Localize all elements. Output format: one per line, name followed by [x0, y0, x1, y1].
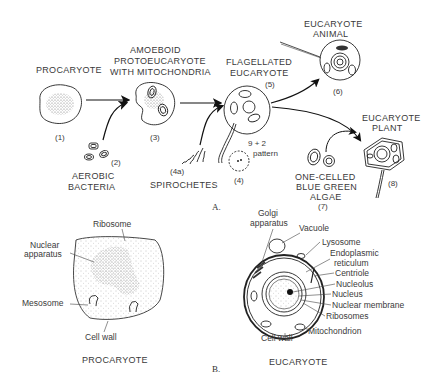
alga-cell-icon	[306, 148, 322, 167]
algae-stage: ONE-CELLED BLUE GREEN ALGAE (7)	[295, 148, 357, 211]
eucaryote-detail: Golgi apparatus Vacuole Lysosome Endopla…	[244, 208, 405, 367]
lysosome-leader	[306, 242, 320, 255]
arrow-flagellated-to-plant	[272, 107, 360, 140]
vacuole-label: Vacuole	[299, 223, 329, 233]
procaryote-stage: PROCARYOTE (1)	[36, 65, 102, 142]
stage-number-8: (8)	[388, 179, 398, 188]
endosymbiosis-figure: PROCARYOTE (1) (2) AEROBIC BACTERIA AMOE…	[0, 0, 442, 391]
flagellated-label-2: EUCARYOTE	[230, 68, 289, 78]
eucaryote-caption: EUCARYOTE	[269, 357, 328, 367]
spirochete-icon	[197, 148, 203, 162]
panel-b: Ribosome Nuclear apparatus Mesosome Cell…	[22, 208, 405, 374]
mitochondrion-inner-icon	[159, 106, 166, 114]
bacterium-inner-icon	[87, 156, 92, 159]
spirochete-icon	[203, 151, 205, 162]
nucleoid-dots	[46, 93, 74, 115]
flagellated-label-1: FLAGELLATED	[226, 57, 292, 67]
mesosome-label: Mesosome	[22, 298, 64, 308]
amoeboid-label-3: WITH MITOCHONDRIA	[110, 67, 211, 77]
golgi-label-1: Golgi	[258, 208, 278, 218]
stage-number-4: (4)	[234, 176, 244, 185]
procaryote-detail: Ribosome Nuclear apparatus Mesosome Cell…	[22, 219, 164, 365]
bacterium-inner-icon	[91, 145, 96, 148]
bacterium-icon	[99, 149, 110, 159]
nucleolus-label: Nucleolus	[336, 279, 373, 289]
chloroplast-icon	[367, 154, 373, 158]
stage-number-4a: (4a)	[170, 167, 185, 176]
arrow-bacteria-to-amoeboid	[103, 103, 126, 140]
panel-b-label: B.	[212, 364, 220, 374]
spirochetes-label: SPIROCHETES	[150, 180, 218, 190]
arrow-spirochetes-to-flagellated	[200, 106, 222, 145]
stage-number-7: (7)	[318, 202, 328, 211]
mitochondrion-icon	[231, 102, 238, 114]
algae-label-2: BLUE GREEN	[296, 182, 357, 192]
bacterium-icon	[89, 143, 98, 149]
amoeboid-label-1: AMOEBOID	[130, 45, 181, 55]
plant-label-1: EUCARYOTE	[362, 113, 421, 123]
er-label-2: reticulum	[334, 258, 368, 268]
pattern-label-1: 9 + 2	[248, 139, 267, 148]
golgi-icon	[336, 46, 348, 51]
flagellum-icon	[222, 124, 236, 163]
golgi-label-2: apparatus	[250, 218, 288, 228]
arrow-algae-to-plant	[326, 131, 355, 152]
axoneme-center-icon	[237, 160, 239, 162]
aerobic-label-1: AEROBIC	[72, 171, 115, 181]
bacterium-inner-icon	[101, 151, 107, 156]
alga-inner-icon	[309, 151, 318, 162]
nucleus	[269, 279, 299, 309]
procaryote-caption: PROCARYOTE	[82, 355, 148, 365]
ribosome-label: Ribosome	[93, 219, 132, 229]
mitochondrion-icon	[324, 63, 330, 73]
ribosomes-label: Ribosomes	[326, 311, 369, 321]
eucaryote-cell-wall-label: Cell wall	[261, 333, 293, 343]
cell-wall-label: Cell wall	[85, 332, 117, 342]
mitochondrion-icon	[247, 113, 261, 124]
pattern-label-2: pattern	[253, 149, 278, 158]
nuclear-label-2: apparatus	[24, 249, 62, 259]
nucleus-label: Nucleus	[332, 289, 363, 299]
vacuole-icon	[269, 239, 285, 253]
nucleolus-icon	[377, 149, 387, 159]
axoneme-center-icon	[240, 159, 242, 161]
stage-number-2: (2)	[111, 158, 121, 167]
stage-number-5: (5)	[265, 80, 275, 89]
nuclear-membrane-label: Nuclear membrane	[332, 300, 405, 310]
aerobic-bacteria-stage: (2) AEROBIC BACTERIA	[68, 143, 121, 192]
animal-label-2: ANIMAL	[313, 29, 348, 39]
chloroplast-icon	[391, 144, 397, 152]
bacterium-icon	[85, 154, 94, 160]
nine-plus-two-stage: 9 + 2 pattern (4)	[229, 139, 278, 185]
nucleus-icon	[374, 146, 390, 162]
algae-label-1: ONE-CELLED	[295, 172, 356, 182]
nucleus-ring-icon	[334, 56, 346, 68]
pointer-line	[281, 44, 321, 58]
vacuole-leader	[282, 233, 300, 243]
alga-cell-icon	[324, 156, 335, 167]
plant-label-2: PLANT	[372, 123, 403, 133]
panel-a: PROCARYOTE (1) (2) AEROBIC BACTERIA AMOE…	[36, 19, 421, 212]
animal-stage: EUCARYOTE ANIMAL (6)	[280, 19, 363, 96]
alga-inner-icon	[326, 158, 332, 164]
flagellum-icon	[219, 123, 234, 163]
algae-label-3: ALGAE	[310, 192, 342, 202]
stage-number-1: (1)	[55, 133, 65, 142]
plant-stage: EUCARYOTE PLANT (8)	[362, 113, 421, 198]
nucleolus	[287, 289, 293, 295]
pointer-line	[280, 42, 320, 57]
stage-number-3: (3)	[150, 133, 160, 142]
stage-number-6: (6)	[333, 87, 343, 96]
spirochete-icon	[182, 155, 194, 164]
amoeboid-stage: AMOEBOID PROTOEUCARYOTE WITH MITOCHONDRI…	[110, 45, 211, 142]
procaryote-title: PROCARYOTE	[36, 65, 102, 75]
aerobic-label-2: BACTERIA	[68, 182, 115, 192]
mitochondrion-icon	[239, 91, 251, 98]
nucleus-icon	[243, 101, 255, 113]
nucleolus-icon	[337, 59, 343, 65]
spirochetes-stage: (4a) SPIROCHETES	[150, 148, 218, 190]
animal-label-1: EUCARYOTE	[304, 19, 363, 29]
amoeboid-label-2: PROTOEUCARYOTE	[114, 56, 206, 66]
er-label-1: Endoplasmic	[330, 248, 379, 258]
cell-wall-leader	[104, 321, 108, 332]
